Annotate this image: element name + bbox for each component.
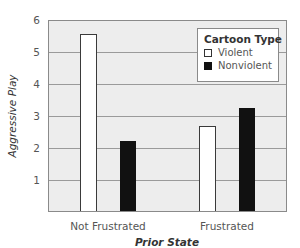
- violent-swatch-icon: [204, 49, 212, 57]
- nonviolent-swatch-icon: [204, 62, 212, 70]
- bar-chart: Aggressive Play 6 5 4 3 2 1 Cartoon Type…: [0, 0, 300, 248]
- y-tick-1: 1: [26, 174, 40, 186]
- y-tick-4: 4: [26, 78, 40, 90]
- y-tick-5: 5: [26, 46, 40, 58]
- bar-frustrated-nonviolent: [239, 108, 255, 211]
- x-axis-label: Prior State: [135, 236, 199, 248]
- bar-not-frustrated-nonviolent: [120, 141, 136, 211]
- bar-frustrated-violent: [199, 126, 216, 212]
- legend-label-violent: Violent: [218, 47, 253, 58]
- y-tick-2: 2: [26, 142, 40, 154]
- legend-label-nonviolent: Nonviolent: [218, 60, 272, 71]
- legend-item-nonviolent: Nonviolent: [204, 60, 272, 71]
- y-axis-label: Aggressive Play: [6, 74, 18, 157]
- legend-item-violent: Violent: [204, 47, 272, 58]
- y-tick-6: 6: [26, 14, 40, 26]
- legend: Cartoon Type Violent Nonviolent: [197, 28, 279, 82]
- legend-title: Cartoon Type: [204, 33, 272, 45]
- x-tick-not-frustrated: Not Frustrated: [70, 220, 146, 232]
- bar-not-frustrated-violent: [80, 34, 97, 211]
- y-tick-3: 3: [26, 110, 40, 122]
- x-tick-frustrated: Frustrated: [200, 220, 254, 232]
